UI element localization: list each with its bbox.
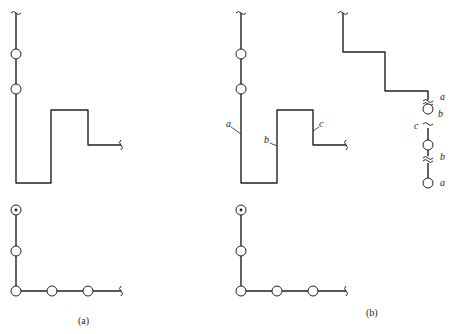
riser-circle: [308, 286, 318, 296]
riser-circle: [236, 246, 246, 256]
panel-a-plan: [11, 205, 123, 296]
riser-circle: [423, 104, 433, 114]
riser-circle: [11, 49, 21, 59]
break-symbol: [423, 160, 433, 163]
riser-circle: [236, 84, 246, 94]
caption-b: (b): [366, 307, 378, 319]
caption-a: (a): [78, 315, 89, 327]
segment-label-b-top: b: [438, 108, 443, 119]
riser-circle: [47, 286, 57, 296]
panel-b: a b c a b c b a: [226, 12, 445, 320]
pipe-run: [241, 210, 346, 291]
panel-b-elevation: a b c: [226, 12, 348, 184]
riser-circle: [423, 178, 433, 188]
leader-line: [231, 127, 241, 134]
pipe-diagram: (a) a b c: [0, 0, 450, 334]
panel-b-plan: [236, 205, 348, 296]
riser-circle: [272, 286, 282, 296]
riser-circle: [11, 286, 21, 296]
segment-label-a-bottom: a: [440, 177, 445, 188]
dot-icon: [15, 209, 18, 212]
riser-circle: [423, 140, 433, 150]
leader-line: [270, 143, 277, 146]
riser-circle: [83, 286, 93, 296]
segment-label-b: b: [264, 134, 269, 145]
pipe-run: [16, 210, 121, 291]
riser-circle: [236, 286, 246, 296]
pipe-run: [241, 13, 346, 183]
riser-circle: [11, 84, 21, 94]
riser-circle: [236, 49, 246, 59]
pipe-run: [343, 13, 428, 100]
break-symbol: [423, 157, 433, 160]
break-symbol: [423, 123, 433, 126]
segment-label-b-bottom: b: [440, 151, 445, 162]
dot-icon: [240, 209, 243, 212]
segment-label-c: c: [319, 118, 324, 129]
segment-label-a: a: [226, 118, 231, 129]
pipe-run: [16, 13, 121, 183]
panel-b-side-elevation: a b c b a: [338, 12, 445, 189]
riser-circle: [11, 246, 21, 256]
panel-a-elevation: [11, 12, 123, 184]
segment-label-c: c: [414, 120, 419, 131]
panel-a: (a): [11, 12, 123, 328]
segment-label-a-top: a: [440, 91, 445, 102]
